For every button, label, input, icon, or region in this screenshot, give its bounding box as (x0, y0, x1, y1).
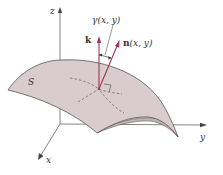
y-axis: y (60, 123, 207, 142)
surface-normal-diagram: z y x S k n(x, y) (0, 0, 223, 175)
n-vector-arrowhead-icon (115, 40, 120, 48)
x-axis-label: x (46, 155, 51, 165)
surface-label: S (28, 77, 34, 87)
gamma-angle: γ(x, y) (92, 15, 121, 59)
y-axis-label: y (199, 132, 206, 142)
z-axis-label: z (49, 6, 55, 16)
gamma-label-args: (x, y) (97, 15, 120, 25)
x-axis: x (38, 124, 60, 165)
y-axis-arrowhead-icon (200, 123, 207, 127)
surface-point (98, 88, 100, 90)
z-axis-arrowhead-icon (58, 7, 62, 13)
n-vector-label-args: (x, y) (130, 38, 153, 48)
n-vector-label: n(x, y) (123, 38, 153, 48)
k-vector-arrowhead-icon (97, 36, 101, 43)
surface-s: S (8, 60, 178, 137)
gamma-label: γ(x, y) (92, 15, 121, 25)
x-axis-arrowhead-icon (38, 153, 44, 160)
k-vector-label: k (85, 35, 92, 45)
